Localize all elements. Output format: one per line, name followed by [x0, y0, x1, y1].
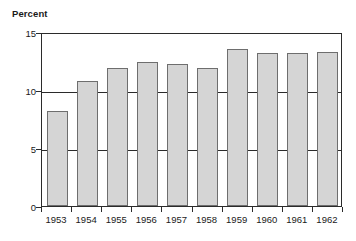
- plot-area: [41, 33, 342, 207]
- y-axis-tick-mark: [36, 149, 41, 150]
- x-axis-tick-label: 1956: [136, 214, 157, 225]
- bar-chart-figure: Percent 051015 1953195419551956195719581…: [0, 0, 356, 241]
- x-axis-tick-label: 1957: [166, 214, 187, 225]
- y-axis-tick-label: 10: [25, 86, 36, 97]
- x-axis-tick-mark: [41, 207, 42, 212]
- bar: [107, 68, 128, 206]
- x-axis-tick-label: 1961: [286, 214, 307, 225]
- bar: [137, 62, 158, 206]
- bar: [227, 49, 248, 206]
- x-axis-tick-mark: [131, 207, 132, 212]
- x-axis-tick-label: 1953: [45, 214, 66, 225]
- x-axis-tick-mark: [161, 207, 162, 212]
- x-axis-tick-mark: [342, 207, 343, 212]
- x-axis-tick-label: 1954: [76, 214, 97, 225]
- x-axis-tick-label: 1958: [196, 214, 217, 225]
- y-axis-tick-mark: [36, 91, 41, 92]
- x-axis-tick-mark: [222, 207, 223, 212]
- y-axis-tick-label-group: 051015: [14, 33, 36, 207]
- bar: [317, 52, 338, 206]
- bar: [197, 68, 218, 206]
- x-axis-tick-mark: [101, 207, 102, 212]
- y-axis-title: Percent: [12, 8, 48, 19]
- x-axis-tick-mark: [282, 207, 283, 212]
- x-axis-tick-label: 1955: [106, 214, 127, 225]
- x-axis-tick-mark: [252, 207, 253, 212]
- bar: [257, 53, 278, 206]
- x-axis-tick-label: 1959: [226, 214, 247, 225]
- bar: [47, 111, 68, 206]
- y-axis-tick-mark: [36, 33, 41, 34]
- y-axis-tick-label: 15: [25, 28, 36, 39]
- bar: [77, 81, 98, 206]
- x-axis-tick-label: 1960: [256, 214, 277, 225]
- x-axis-tick-mark: [71, 207, 72, 212]
- y-axis-tick-mark: [36, 207, 41, 208]
- bar: [287, 53, 308, 206]
- x-axis-tick-mark: [312, 207, 313, 212]
- x-axis-tick-label: 1962: [316, 214, 337, 225]
- bar: [167, 64, 188, 206]
- x-axis-tick-mark: [192, 207, 193, 212]
